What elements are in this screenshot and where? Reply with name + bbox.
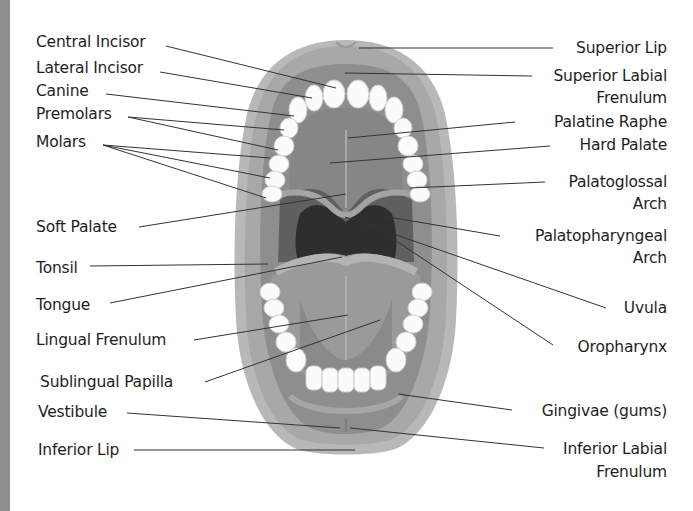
label-hard-palate: Hard Palate [580,136,667,155]
label-inferior-lip: Inferior Lip [38,441,119,460]
label-gingivae: Gingivae (gums) [542,402,667,421]
label-uvula: Uvula [624,299,667,318]
label-tongue: Tongue [36,296,90,315]
label-palatine-raphe: Palatine Raphe [554,113,667,132]
label-vestibule: Vestibule [38,403,107,422]
label-soft-palate: Soft Palate [36,218,117,237]
label-palatopharyngeal-arch-line1: Palatopharyngeal [535,227,667,246]
label-superior-labial-frenulum-line2: Frenulum [596,89,667,108]
label-central-incisor: Central Incisor [36,33,146,52]
label-tonsil: Tonsil [36,259,78,278]
label-palatoglossal-arch-line1: Palatoglossal [569,173,668,192]
label-premolars: Premolars [36,105,112,124]
label-superior-lip: Superior Lip [576,39,667,58]
label-molars: Molars [36,133,86,152]
label-superior-labial-frenulum-line1: Superior Labial [553,67,667,86]
label-canine: Canine [36,82,89,101]
label-inferior-labial-frenulum-line2: Frenulum [596,463,667,482]
label-oropharynx: Oropharynx [578,338,667,357]
label-palatoglossal-arch-line2: Arch [633,195,667,214]
label-palatopharyngeal-arch-line2: Arch [633,249,667,268]
label-inferior-labial-frenulum-line1: Inferior Labial [563,440,667,459]
label-lateral-incisor: Lateral Incisor [36,59,143,78]
label-lingual-frenulum: Lingual Frenulum [36,331,166,350]
label-sublingual-papilla: Sublingual Papilla [40,373,173,392]
